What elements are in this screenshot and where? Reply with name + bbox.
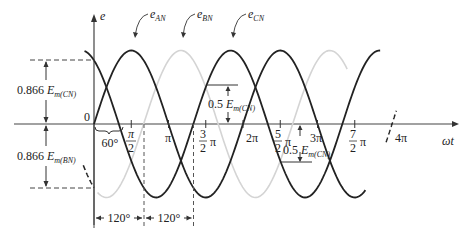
x-axis-label: ωt — [442, 134, 454, 148]
svg-text:π: π — [210, 135, 216, 149]
y-axis-arrow-icon — [91, 14, 97, 22]
svg-text:3: 3 — [200, 127, 206, 141]
spacing-label-2: 120° — [158, 211, 181, 225]
svg-text:eCN: eCN — [248, 7, 265, 23]
svg-text:2: 2 — [200, 141, 206, 155]
svg-text:2: 2 — [350, 141, 356, 155]
y-axis-label: e — [100, 9, 106, 23]
angle-60-label: 60° — [102, 136, 119, 150]
pointer-an-icon — [133, 32, 138, 38]
svg-text:4π: 4π — [395, 131, 407, 145]
svg-text:2: 2 — [128, 141, 134, 155]
curve-e-bn-lead-in — [83, 165, 94, 187]
half-upper-arrow-icon — [226, 86, 231, 91]
svg-text:π: π — [128, 127, 135, 141]
x-axis-arrow-icon — [452, 121, 459, 127]
svg-text:π: π — [360, 135, 366, 149]
svg-text:eBN: eBN — [197, 7, 213, 23]
label-e-bn: eBN — [181, 7, 213, 38]
svg-text:π: π — [165, 131, 171, 145]
svg-text:7: 7 — [350, 127, 356, 141]
label-e-cn: eCN — [231, 7, 265, 38]
svg-text:3π: 3π — [310, 131, 322, 145]
svg-text:π: π — [285, 135, 291, 149]
half-lower-arrow2-icon — [298, 157, 303, 162]
pointer-bn-icon — [181, 32, 186, 38]
svg-text:2π: 2π — [246, 131, 258, 145]
three-phase-waveform-diagram: 120° 120° 0.866 Em(CN) 0.866 Em(BN) 0.5 … — [0, 0, 468, 245]
svg-text:5: 5 — [275, 127, 281, 141]
curve-e-cn-lead-in — [85, 51, 94, 60]
x-tick-labels: π 2 π 3 2 π 2π 5 2 π 3π 7 2 π 4π — [126, 127, 407, 155]
half-lower-arrow-icon — [298, 125, 303, 130]
origin-label: 0 — [84, 110, 90, 124]
svg-text:2: 2 — [275, 141, 281, 155]
brace-60deg — [95, 127, 123, 134]
half-upper-arrow2-icon — [226, 118, 231, 123]
spacing-label-1: 120° — [108, 211, 131, 225]
annotation-05-emcn-upper: 0.5 Em(CN) — [208, 97, 255, 113]
svg-text:eAN: eAN — [150, 7, 166, 23]
pointer-cn-icon — [231, 32, 236, 38]
label-e-an: eAN — [133, 7, 166, 38]
